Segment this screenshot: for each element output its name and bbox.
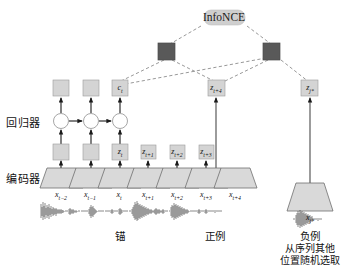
regressor-side-label: 回归器 [6,114,41,130]
context-box-t-label: ct [117,83,122,94]
target-latent-label: zt+4 [210,83,222,94]
negative-input-label: xj* [306,213,314,224]
encoder-side-label: 编码器 [6,170,41,186]
diagram-graphics [0,0,350,271]
encoder-output-arrows [61,161,206,168]
link-score-right-to-zt4-cross [221,60,268,83]
input-label-4: xt+2 [171,190,183,201]
input-label-3: xt+1 [142,190,154,201]
link-score-right-to-ct [120,58,266,85]
caption-positive: 正例 [205,228,225,243]
caption-negative: 负例 [300,228,320,243]
infonce-label: InfoNCE [203,11,245,23]
caption-anchor: 锚 [115,228,125,243]
link-infonce-to-score-right [247,26,271,44]
input-label-1: xt−1 [84,190,96,201]
input-label-2: xt [116,190,121,201]
regressor-output-arrows [61,98,120,113]
latent-box-t1-label: zt+1 [142,147,154,158]
link-infonce-to-score-left [170,26,201,44]
infonce-dashed-links [119,26,309,85]
score-square-positive [158,43,175,60]
caption-negative-note-line1: 从序列其他 [285,243,335,255]
diagram-canvas: InfoNCE 回归器 编码器 ct zt zt+1 zt+2 zt+3 zt+… [0,0,350,271]
input-label-0: xt−2 [55,190,67,201]
link-score-right-to-zj [281,60,309,82]
encoder-trapezoid-row [40,168,257,188]
latent-box-t-label: zt [118,147,123,158]
negative-latent-label: zj* [306,83,314,94]
input-waveform [40,201,222,221]
latent-box-row [53,144,214,160]
input-label-6: xt+4 [229,190,241,201]
link-score-left-to-ct [119,60,164,82]
score-square-negative [263,43,280,60]
input-label-5: xt+3 [200,190,212,201]
regressor-cells [54,114,128,129]
caption-negative-note-line2: 位置随机选取 [280,255,340,267]
negative-encoder-trapezoid [287,183,333,211]
latent-box-t2-label: zt+2 [171,147,183,158]
latent-box-t3-label: zt+3 [200,147,212,158]
latent-to-regressor-arrows [61,130,120,144]
